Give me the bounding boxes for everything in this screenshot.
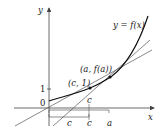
curve-label: y = f(x) [112,20,145,30]
y-axis-label: y [37,5,43,15]
origin-label: 0 [40,98,45,108]
point-a-fa-label: (a, f(a)) [80,64,112,74]
function-diagram: y x 0 1 y = f(x) (c, 1) (a, f(a)) c c c … [0,0,165,133]
y-one-label: 1 [40,84,45,94]
point-a-fa [108,75,111,78]
upper-c-label: c [87,95,92,105]
point-c-1-label: (c, 1) [68,78,90,88]
a-label: a [107,118,112,128]
bracket-0-to-c [49,114,89,117]
lower-c-right-label: c [87,118,92,128]
lower-c-left-label: c [67,118,72,128]
line-through-origin [15,50,152,126]
bracket-0-to-a [49,110,109,113]
x-axis-label: x [148,112,153,122]
